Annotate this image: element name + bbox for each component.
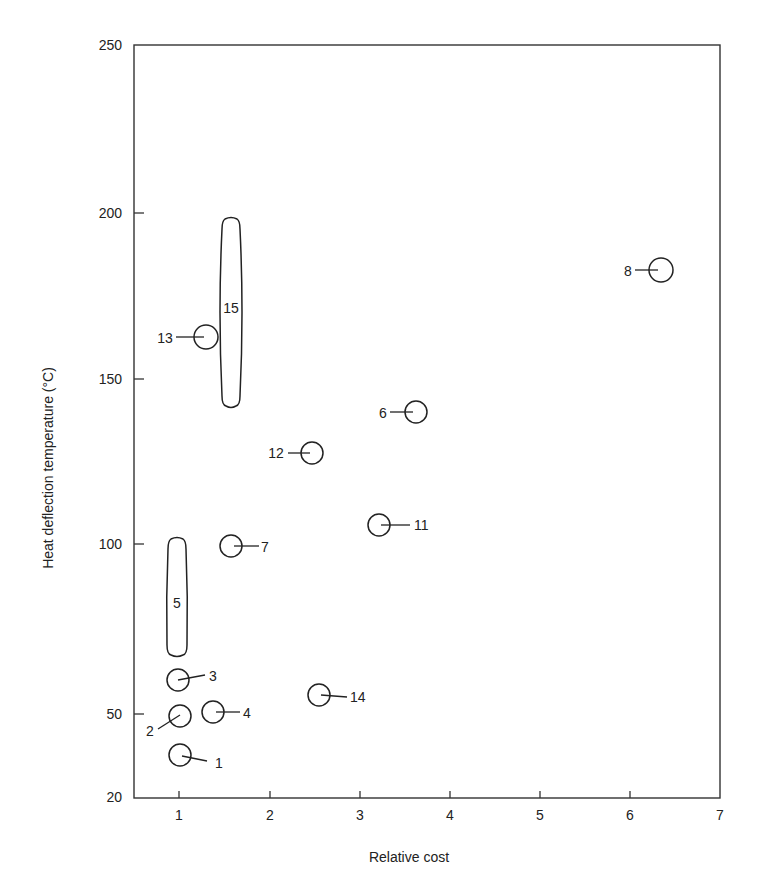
leader-line [321,695,347,697]
point-label: 12 [268,445,284,461]
point-label: 6 [379,405,387,421]
x-tick-label: 6 [626,807,634,823]
x-tick-label: 5 [536,807,544,823]
range-label: 5 [173,595,181,611]
point-label: 13 [157,330,173,346]
y-tick-label: 150 [99,371,123,387]
point-label: 2 [146,723,154,739]
y-tick-label: 100 [99,536,123,552]
y-axis: 2502001501005020 [99,37,144,805]
point-label: 1 [215,755,223,771]
point-marker-2 [169,705,191,727]
range-label: 15 [223,300,239,316]
x-tick-label: 7 [716,807,724,823]
x-axis-title: Relative cost [369,849,449,865]
point-label: 8 [624,263,632,279]
point-label: 7 [261,539,269,555]
point-label: 14 [350,689,366,705]
y-tick-label: 250 [99,37,123,53]
point-label: 4 [243,705,251,721]
y-tick-label: 200 [99,205,123,221]
x-tick-label: 1 [175,807,183,823]
y-tick-label: 20 [106,789,122,805]
plot-frame [134,45,720,798]
x-tick-label: 4 [446,807,454,823]
data-points: 123467811121314 [146,258,673,771]
point-label: 11 [414,517,429,533]
point-label: 3 [209,668,217,684]
leader-line [178,675,205,680]
scatter-chart: 1234567 2502001501005020 515 12346781112… [0,0,758,895]
leader-line [182,756,207,761]
x-tick-label: 3 [356,807,364,823]
y-axis-title: Heat deflection temperature (°C) [40,367,56,569]
point-marker-1 [169,744,191,766]
y-tick-label: 50 [106,706,122,722]
range-markers: 515 [167,218,242,657]
x-axis: 1234567 [175,791,724,823]
x-tick-label: 2 [266,807,274,823]
